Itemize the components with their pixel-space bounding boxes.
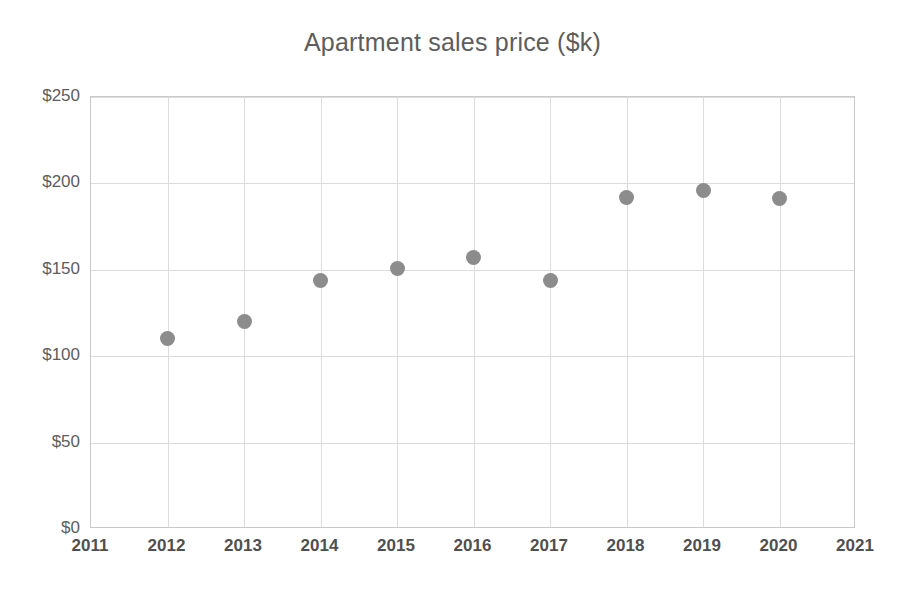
gridline-horizontal xyxy=(91,270,854,271)
y-tick-label: $0 xyxy=(8,518,80,538)
y-tick-label: $100 xyxy=(8,345,80,365)
plot-area xyxy=(90,96,855,528)
gridline-vertical xyxy=(168,97,169,527)
gridline-vertical xyxy=(397,97,398,527)
gridline-vertical xyxy=(474,97,475,527)
data-point xyxy=(466,250,481,265)
data-point xyxy=(237,314,252,329)
x-axis-labels: 2011201220132014201520162017201820192020… xyxy=(0,536,905,566)
gridline-horizontal xyxy=(91,443,854,444)
chart-figure: Apartment sales price ($k) $0$50$100$150… xyxy=(0,0,905,602)
y-tick-label: $250 xyxy=(8,86,80,106)
data-point xyxy=(313,273,328,288)
chart-title: Apartment sales price ($k) xyxy=(0,28,905,57)
gridline-horizontal xyxy=(91,183,854,184)
y-axis-labels: $0$50$100$150$200$250 xyxy=(0,96,80,528)
data-point xyxy=(390,261,405,276)
gridline-horizontal xyxy=(91,97,854,98)
y-tick-label: $150 xyxy=(8,259,80,279)
data-point xyxy=(619,190,634,205)
data-point xyxy=(543,273,558,288)
y-tick-label: $50 xyxy=(8,432,80,452)
data-point xyxy=(160,331,175,346)
gridline-vertical xyxy=(550,97,551,527)
y-tick-label: $200 xyxy=(8,172,80,192)
gridline-vertical xyxy=(780,97,781,527)
data-point xyxy=(772,191,787,206)
data-point xyxy=(696,183,711,198)
gridline-vertical xyxy=(321,97,322,527)
gridline-vertical xyxy=(627,97,628,527)
gridline-vertical xyxy=(244,97,245,527)
x-tick-label: 2021 xyxy=(810,536,900,556)
gridline-horizontal xyxy=(91,356,854,357)
gridline-vertical xyxy=(703,97,704,527)
